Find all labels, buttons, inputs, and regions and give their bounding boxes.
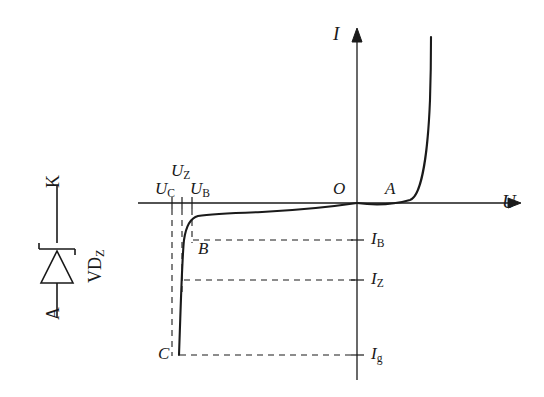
diode-triangle-icon — [41, 251, 73, 283]
voltage-tick-label-ub: UB — [190, 180, 210, 200]
current-tick-label-ig: Ig — [371, 345, 382, 365]
voltage-tick-label-uz: UZ — [171, 162, 190, 182]
dashed-guides-group — [172, 209, 355, 356]
figure-canvas: K A VDZ U I O UZ UC UB IB IZ Ig A B C — [0, 0, 544, 397]
curve-point-label-c: C — [158, 345, 169, 362]
cathode-label: K — [44, 175, 62, 188]
anode-label: A — [44, 307, 62, 320]
diode-symbol-group — [39, 186, 75, 318]
diagram-svg — [0, 0, 544, 397]
u-axis-label: U — [502, 192, 516, 211]
curve-point-label-a: A — [385, 180, 395, 197]
i-axis-label: I — [333, 24, 339, 43]
current-tick-label-ib: IB — [371, 230, 384, 250]
origin-label: O — [333, 180, 345, 197]
device-label: VDZ — [86, 250, 107, 283]
voltage-tick-label-uc: UC — [155, 180, 175, 200]
axes-group — [138, 28, 521, 380]
curve-point-label-b: B — [198, 240, 208, 257]
reverse-branch-curve — [179, 203, 357, 355]
current-tick-label-iz: IZ — [371, 270, 384, 290]
zener-bar-icon — [39, 243, 75, 255]
i-axis-arrow-icon — [352, 28, 362, 42]
